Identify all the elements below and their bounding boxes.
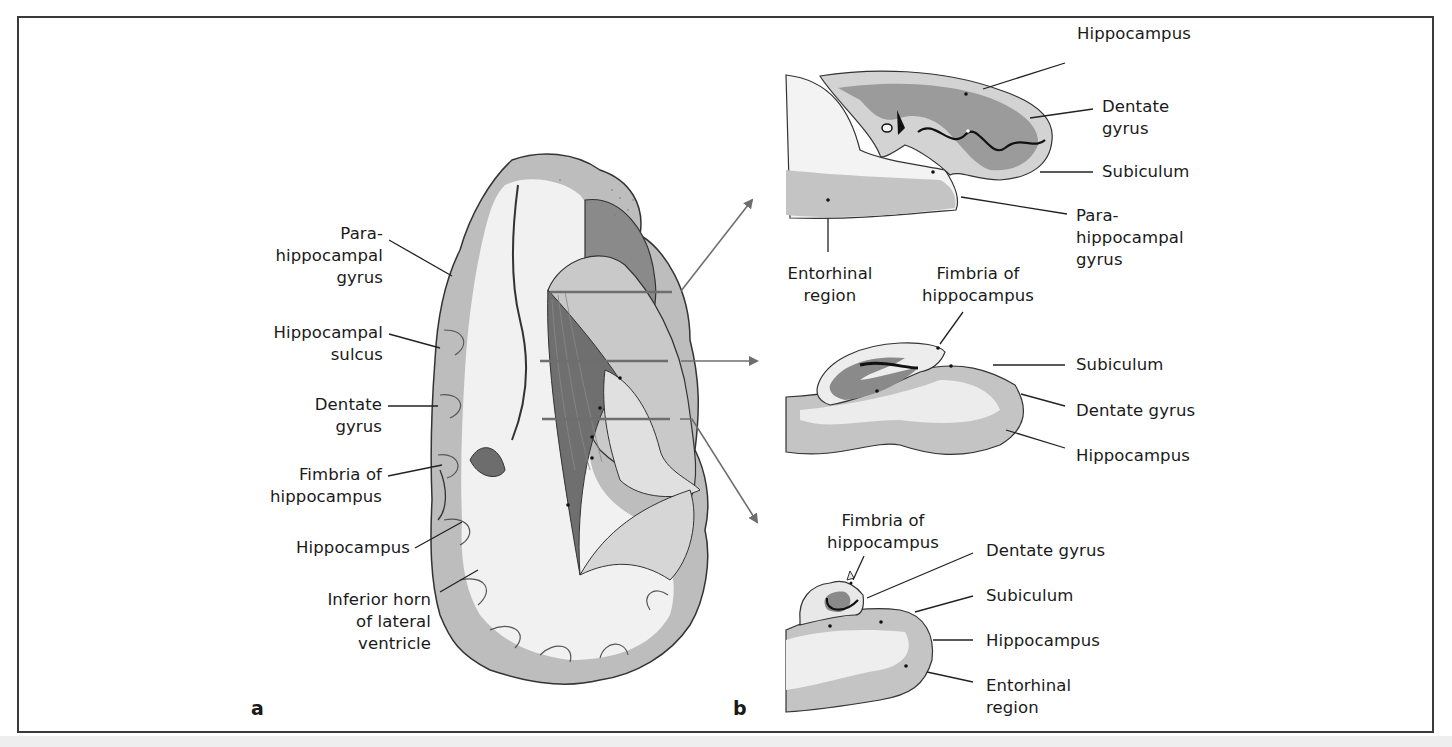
label-top-fimbria-of-hippocampus: Fimbria of hippocampus <box>913 263 1043 307</box>
label-bottom-dentate-gyrus: Dentate gyrus <box>986 540 1105 562</box>
label-top-hippocampus: Hippocampus <box>1077 23 1191 45</box>
label-top-dentate-gyrus: Dentate gyrus <box>1102 96 1169 140</box>
panel-letter-b: b <box>733 697 747 719</box>
label-hippocampal-sulcus: Hippocampal sulcus <box>273 322 383 366</box>
label-middle-subiculum: Subiculum <box>1076 354 1164 376</box>
label-bottom-subiculum: Subiculum <box>986 585 1074 607</box>
label-middle-dentate-gyrus: Dentate gyrus <box>1076 400 1195 422</box>
panel-letter-a: a <box>251 697 264 719</box>
label-top-parahippocampal-gyrus: Para- hippocampal gyrus <box>1076 205 1184 271</box>
label-bottom-entorhinal-region: Entorhinal region <box>986 675 1071 719</box>
section-bottom <box>786 571 933 712</box>
label-fimbria-of-hippocampus: Fimbria of hippocampus <box>270 464 382 508</box>
figure-illustration <box>0 0 1452 747</box>
label-inferior-horn-of-lateral-ventricle: Inferior horn of lateral ventricle <box>327 589 431 655</box>
label-bottom-fimbria-of-hippocampus: Fimbria of hippocampus <box>818 510 948 554</box>
label-bottom-hippocampus: Hippocampus <box>986 630 1100 652</box>
section-top <box>786 71 1052 218</box>
label-parahippocampal-gyrus: Para- hippocampal gyrus <box>275 223 383 289</box>
label-top-subiculum: Subiculum <box>1102 161 1190 183</box>
label-top-entorhinal-region: Entorhinal region <box>780 263 880 307</box>
section-middle <box>786 343 1023 455</box>
label-middle-hippocampus: Hippocampus <box>1076 445 1190 467</box>
label-hippocampus: Hippocampus <box>296 537 410 559</box>
label-dentate-gyrus: Dentate gyrus <box>315 394 382 438</box>
